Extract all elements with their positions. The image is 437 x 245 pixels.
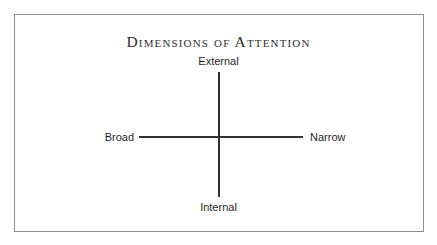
horizontal-axis-line bbox=[139, 136, 303, 138]
vertical-axis-line bbox=[218, 72, 220, 197]
axis-label-narrow: Narrow bbox=[310, 131, 345, 144]
axis-label-external: External bbox=[0, 55, 437, 68]
dimensions-of-attention-figure: Dimensions of Attention External Interna… bbox=[0, 0, 437, 245]
axis-label-internal: Internal bbox=[0, 201, 437, 214]
axis-label-broad: Broad bbox=[0, 131, 134, 144]
figure-title: Dimensions of Attention bbox=[0, 33, 437, 50]
